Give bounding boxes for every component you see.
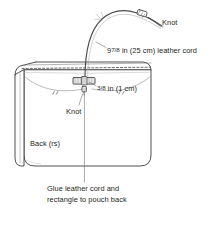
- label-instruction-caption: Glue leather cord and rectangle to pouch…: [47, 184, 139, 205]
- cord-length-units: in (25 cm) leather cord: [120, 46, 197, 55]
- cord-length-fraction: 7/8: [111, 46, 120, 53]
- pouch-top-band: [24, 63, 151, 70]
- pouch-side-gusset: [15, 70, 24, 166]
- label-knot-top: Knot: [162, 18, 177, 29]
- cord-tail-wisps: [95, 13, 103, 25]
- label-tab-width: 3/8 in (1 cm): [97, 83, 137, 94]
- cord-knot-lower: [82, 86, 87, 91]
- leader-cord-length: [96, 42, 106, 48]
- instruction-diagram: Knot 97/8 in (25 cm) leather cord 3/8 in…: [0, 0, 223, 239]
- label-cord-length: 97/8 in (25 cm) leather cord: [107, 45, 197, 56]
- top-stitch-line: [22, 67, 150, 68]
- label-back-rs: Back (rs): [30, 139, 60, 150]
- tab-width-fraction: 3/8: [97, 84, 106, 91]
- label-knot-middle: Knot: [66, 107, 81, 118]
- tab-width-units: in (1 cm): [106, 84, 137, 93]
